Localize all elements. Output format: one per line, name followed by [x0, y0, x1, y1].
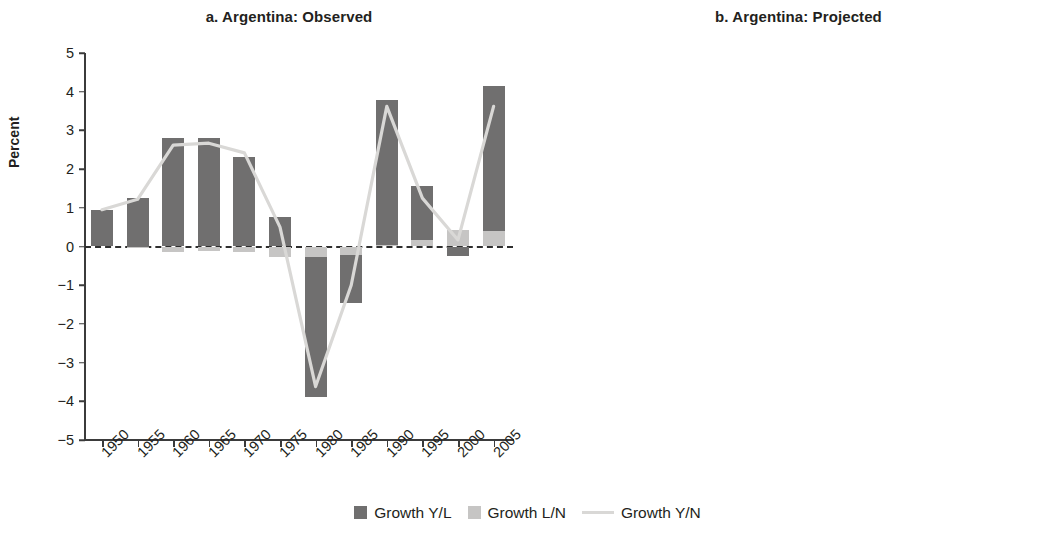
- growth-yn-line: [85, 53, 513, 440]
- panel-observed: a. Argentina: Observed Percent 543210−1−…: [0, 0, 530, 500]
- square-light-swatch-icon: [468, 506, 481, 519]
- line-swatch-icon: [582, 511, 614, 514]
- legend-item-growth-ln: Growth L/N: [468, 505, 566, 521]
- plot-area-a: 543210−1−2−3−4−5195019551960196519701975…: [85, 53, 513, 440]
- legend-item-growth-yl: Growth Y/L: [354, 505, 451, 521]
- y-tick-label: 1: [39, 200, 85, 216]
- y-tick-label: −4: [39, 393, 85, 409]
- legend-label-growth-yn: Growth Y/N: [621, 505, 701, 521]
- y-tick-label: −2: [39, 316, 85, 332]
- chart-layer-a: [85, 53, 513, 440]
- y-axis-label: Percent: [6, 117, 22, 168]
- figure-root: a. Argentina: Observed Percent 543210−1−…: [0, 0, 1055, 542]
- panel-b-title: b. Argentina: Projected: [530, 8, 1055, 25]
- y-tick-label: −3: [39, 355, 85, 371]
- square-dark-swatch-icon: [354, 506, 367, 519]
- y-tick-label: 2: [39, 161, 85, 177]
- y-tick-label: 5: [39, 45, 85, 61]
- panel-projected: b. Argentina: Projected 3.02.52.01.51.00…: [530, 0, 1055, 500]
- y-tick-label: −5: [39, 432, 85, 448]
- y-tick-label: 0: [39, 239, 85, 255]
- panel-a-title: a. Argentina: Observed: [0, 8, 554, 25]
- legend-label-growth-ln: Growth L/N: [488, 505, 566, 521]
- chart-legend: Growth Y/L Growth L/N Growth Y/N: [0, 505, 1055, 521]
- legend-label-growth-yl: Growth Y/L: [374, 505, 451, 521]
- y-tick-label: 4: [39, 84, 85, 100]
- y-tick-label: −1: [39, 277, 85, 293]
- y-tick-label: 3: [39, 122, 85, 138]
- legend-item-growth-yn: Growth Y/N: [582, 505, 701, 521]
